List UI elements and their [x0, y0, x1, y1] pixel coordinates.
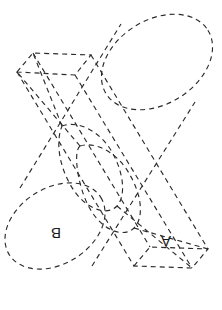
label-prism-a: A — [161, 233, 171, 250]
label-cylinder-b: B — [51, 225, 61, 242]
technical-drawing-figure: B A — [0, 0, 222, 310]
drawing-canvas: B A — [0, 0, 222, 310]
